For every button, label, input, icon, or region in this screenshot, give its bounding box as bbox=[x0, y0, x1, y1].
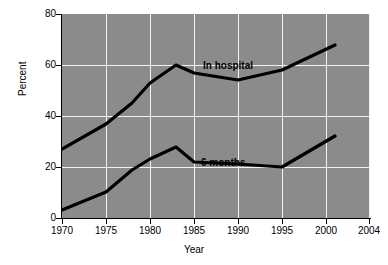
x-axis-tick bbox=[194, 219, 195, 224]
y-axis-tick bbox=[56, 14, 62, 15]
x-axis-tick-label: 1970 bbox=[51, 226, 73, 236]
y-axis-tick-label: 80 bbox=[45, 9, 56, 19]
series-line-in-hospital bbox=[62, 45, 335, 149]
y-axis-tick bbox=[56, 167, 62, 168]
x-axis-line bbox=[61, 218, 371, 219]
series-lines bbox=[62, 14, 370, 218]
x-axis-tick bbox=[106, 219, 107, 224]
x-axis-tick-label: 1990 bbox=[227, 226, 249, 236]
x-axis-tick-label: 1995 bbox=[271, 226, 293, 236]
y-axis-tick-label: 60 bbox=[45, 60, 56, 70]
x-axis-tick-label: 2000 bbox=[315, 226, 337, 236]
y-axis-tick-label: 40 bbox=[45, 111, 56, 121]
series-label-in-hospital: In hospital bbox=[203, 60, 253, 71]
series-label-6-months: 6 months bbox=[201, 157, 245, 168]
x-axis-tick bbox=[150, 219, 151, 224]
chart-figure: In hospital 6 months 0 20 40 60 80 1970 … bbox=[0, 0, 388, 265]
x-axis-title: Year bbox=[0, 244, 388, 255]
y-axis-tick-label: 20 bbox=[45, 162, 56, 172]
x-axis-tick-label: 2004 bbox=[358, 226, 380, 236]
x-axis-tick bbox=[326, 219, 327, 224]
x-axis-tick bbox=[62, 219, 63, 224]
x-axis-tick-label: 1985 bbox=[183, 226, 205, 236]
x-axis-tick bbox=[282, 219, 283, 224]
x-axis-tick bbox=[369, 219, 370, 224]
plot-area: In hospital 6 months bbox=[62, 14, 370, 218]
y-axis-tick-label: 0 bbox=[50, 213, 56, 223]
y-axis-title: Percent bbox=[17, 62, 28, 96]
x-axis-tick-label: 1975 bbox=[95, 226, 117, 236]
x-axis-tick bbox=[238, 219, 239, 224]
series-line-6-months bbox=[62, 136, 335, 210]
y-axis-tick bbox=[56, 116, 62, 117]
y-axis-tick bbox=[56, 65, 62, 66]
x-axis-tick-label: 1980 bbox=[139, 226, 161, 236]
